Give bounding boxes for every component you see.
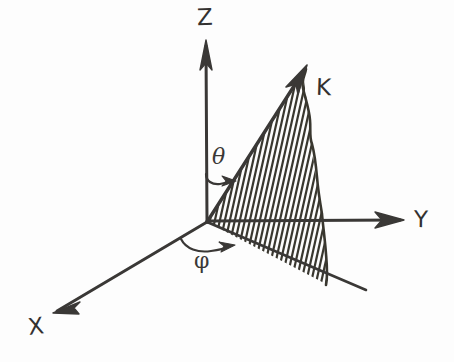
- axis-label-x: X: [27, 314, 45, 339]
- angle-label-theta: θ: [212, 146, 225, 168]
- axis-label-z: Z: [197, 6, 214, 30]
- axis-label-y: Y: [414, 208, 428, 231]
- spherical-coordinate-figure: Z Y X K θ φ: [0, 0, 454, 362]
- z-axis: [200, 40, 212, 222]
- figure-canvas: [0, 0, 454, 362]
- vector-label-k: K: [316, 76, 332, 100]
- x-axis: [53, 222, 207, 314]
- angle-label-phi: φ: [194, 250, 209, 272]
- phi-arc-arrowhead: [219, 242, 235, 252]
